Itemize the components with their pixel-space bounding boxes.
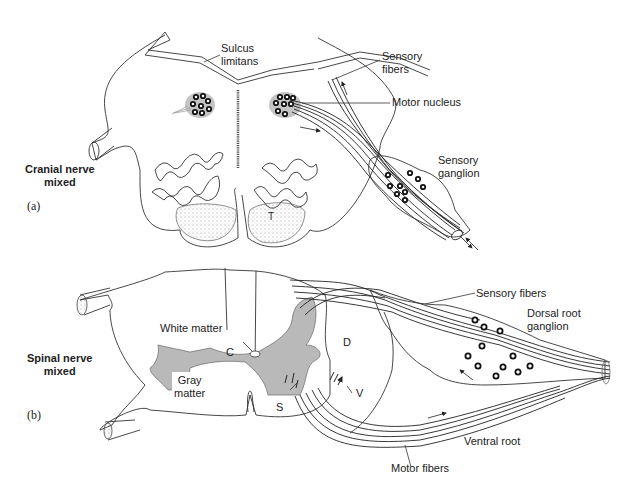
label-text: Sensory (382, 50, 422, 63)
label-motor-fibers: Motor fibers (391, 462, 449, 475)
label-white-matter: White matter (160, 322, 222, 335)
title-line: Spinal nerve (27, 352, 92, 365)
label-gray-matter: Gray matter (174, 374, 205, 400)
brainstem-section (89, 32, 430, 247)
label-ventral-root: Ventral root (464, 435, 520, 448)
label-text: fibers (382, 63, 422, 76)
label-ventral-horn: V (356, 387, 363, 400)
label-motor-nucleus: Motor nucleus (392, 96, 461, 109)
diagram-drawing (0, 0, 628, 495)
label-text: Sulcus (221, 42, 258, 55)
spinal-cord-section (77, 268, 352, 440)
label-text: ganglion (438, 167, 480, 180)
cranial-nerve-fibers (204, 55, 478, 250)
label-sensory-fibers-a: Sensory fibers (382, 50, 422, 76)
title-line: mixed (25, 176, 95, 189)
panel-b-caption: (b) (27, 409, 41, 422)
label-text: Gray (174, 374, 205, 387)
panel-b-title: Spinal nerve mixed (27, 352, 92, 378)
label-text: ganglion (527, 320, 581, 333)
label-dorsal-horn: D (343, 336, 351, 349)
label-sensory-fibers-b: Sensory fibers (476, 287, 546, 300)
label-text: Sensory (438, 154, 480, 167)
label-text: limitans (221, 55, 258, 68)
label-sulcus-limitans: Sulcus limitans (221, 42, 258, 68)
nerve-diagram-figure: Sulcus limitans Sensory fibers Motor nuc… (0, 0, 628, 495)
label-sensory-ganglion: Sensory ganglion (438, 154, 480, 180)
label-dorsal-root-ganglion: Dorsal root ganglion (527, 307, 581, 333)
label-tract: T (268, 210, 274, 223)
label-text: Dorsal root (527, 307, 581, 320)
title-line: mixed (27, 365, 92, 378)
title-line: Cranial nerve (25, 163, 95, 176)
label-text: matter (174, 387, 205, 400)
panel-a-caption: (a) (27, 200, 40, 213)
label-central-canal: C (226, 346, 234, 359)
panel-a-title: Cranial nerve mixed (25, 163, 95, 189)
label-somatic: S (276, 401, 283, 414)
